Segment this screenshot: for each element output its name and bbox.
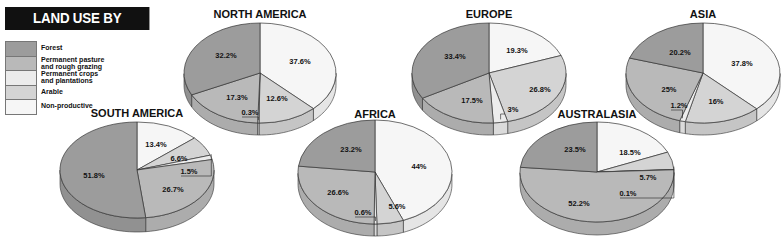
slice-label-arable: 26.8% [529,85,551,94]
pie-asia: ASIA37.8%16%1.2%25%20.2% [626,8,780,135]
slice-label-nonprod: 19.3% [506,46,528,55]
pie-south-america: SOUTH AMERICA13.4%6.6%1.5%26.7%51.8% [60,107,214,232]
slice-label-crops: 1.2% [670,101,687,110]
slice-label-pasture: 17.3% [226,93,248,102]
pie-side-crops [374,224,377,236]
slice-label-forest: 20.2% [669,48,691,57]
slice-label-crops: 0.3% [241,108,258,117]
pie-title: SOUTH AMERICA [91,107,184,119]
pie-australasia: AUSTRALASIA18.5%5.7%0.1%52.2%23.5% [520,108,674,235]
slice-label-crops: 0.6% [354,208,371,217]
slice-label-nonprod: 13.4% [145,140,167,149]
slice-label-arable: 6.6% [170,154,187,163]
slice-label-forest: 33.4% [444,52,466,61]
slice-label-pasture: 52.2% [568,199,590,208]
pie-side-crops [680,121,686,134]
pie-north-america: NORTH AMERICA37.6%12.6%0.3%17.3%32.2% [184,8,336,135]
slice-label-crops: 1.5% [180,167,197,176]
pie-title: AFRICA [354,108,396,120]
slice-label-pasture: 17.5% [461,96,483,105]
slice-label-arable: 5.7% [639,173,656,182]
slice-label-pasture: 25% [661,85,676,94]
slice-label-arable: 16% [708,97,723,106]
slice-label-nonprod: 37.6% [289,57,311,66]
pie-charts: NORTH AMERICA37.6%12.6%0.3%17.3%32.2%EUR… [0,0,783,240]
slice-label-forest: 23.5% [564,145,586,154]
slice-label-pasture: 26.6% [327,188,349,197]
pie-title: NORTH AMERICA [213,8,306,20]
slice-label-forest: 32.2% [215,51,237,60]
slice-label-forest: 51.8% [83,171,105,180]
slice-label-crops: 3% [508,105,519,114]
slice-label-forest: 23.2% [340,145,362,154]
slice-label-nonprod: 18.5% [619,148,641,157]
slice-label-pasture: 26.7% [162,185,184,194]
slice-label-crops: 0.1% [619,189,636,198]
slice-label-nonprod: 44% [411,162,426,171]
slice-label-nonprod: 37.8% [731,59,753,68]
pie-africa: AFRICA44%5.6%0.6%26.6%23.2% [298,108,452,236]
pie-title: EUROPE [466,8,512,20]
pie-europe: EUROPE19.3%26.8%3%17.5%33.4% [412,8,566,135]
pie-title: AUSTRALASIA [558,108,637,120]
pie-title: ASIA [690,8,716,20]
pie-side-crops [493,122,507,135]
slice-label-arable: 12.6% [266,94,288,103]
slice-label-arable: 5.6% [388,202,405,211]
pie-slice-forest [298,120,375,172]
